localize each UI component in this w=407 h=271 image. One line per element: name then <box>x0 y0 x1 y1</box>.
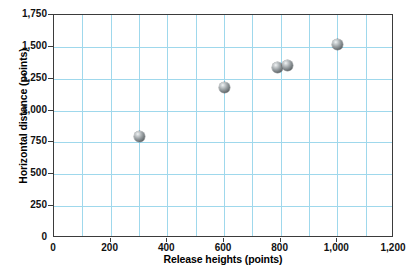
x-axis-tick-mark <box>110 238 111 242</box>
gridline-horizontal <box>54 174 392 175</box>
gridline-horizontal <box>54 79 392 80</box>
gridline-vertical <box>281 15 282 236</box>
gridline-horizontal <box>54 111 392 112</box>
y-axis-tick-label: 750 <box>1 135 47 146</box>
gridline-vertical <box>366 15 367 236</box>
y-axis-tick-label: 1,500 <box>1 40 47 51</box>
x-axis-tick-mark <box>166 238 167 242</box>
x-axis-tick-mark <box>223 238 224 242</box>
x-axis-tick-label: 400 <box>136 242 196 253</box>
gridline-vertical <box>111 15 112 236</box>
x-axis-tick-label: 200 <box>80 242 140 253</box>
y-axis-tick-label: 1,000 <box>1 104 47 115</box>
scatter-chart: Horizontal distance (points) 02505007501… <box>0 0 407 271</box>
gridline-vertical <box>309 15 310 236</box>
y-axis-tick-label: 0 <box>1 231 47 242</box>
y-axis-tick-label: 1,750 <box>1 8 47 19</box>
x-axis-tick-label: 600 <box>193 242 253 253</box>
gridline-horizontal <box>54 206 392 207</box>
gridline-vertical <box>82 15 83 236</box>
gridline-vertical <box>196 15 197 236</box>
gridline-vertical <box>139 15 140 236</box>
x-axis-tick-mark <box>336 238 337 242</box>
data-point <box>134 131 145 142</box>
x-axis-tick-label: 1,200 <box>363 242 407 253</box>
data-point <box>282 60 293 71</box>
gridline-vertical <box>167 15 168 236</box>
x-axis-title: Release heights (points) <box>53 253 393 265</box>
y-axis-tick-label: 500 <box>1 167 47 178</box>
x-axis-tick-label: 800 <box>250 242 310 253</box>
gridline-vertical <box>252 15 253 236</box>
x-axis-tick-mark <box>280 238 281 242</box>
gridline-horizontal <box>54 142 392 143</box>
x-axis-tick-label: 0 <box>23 242 83 253</box>
y-axis-tick-label: 1,250 <box>1 72 47 83</box>
plot-area <box>53 14 393 237</box>
gridline-vertical <box>224 15 225 236</box>
y-axis-tick-label: 250 <box>1 199 47 210</box>
x-axis-tick-label: 1,000 <box>306 242 366 253</box>
data-point <box>332 39 343 50</box>
data-point <box>219 82 230 93</box>
